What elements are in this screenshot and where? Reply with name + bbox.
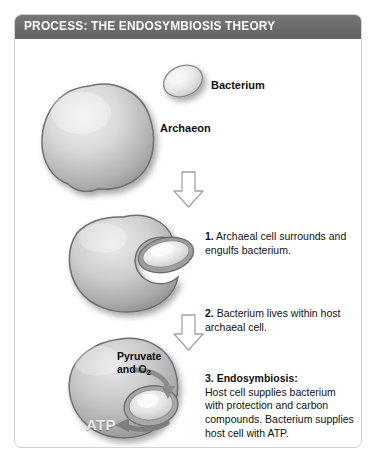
endosymbiosis-figure-frame: PROCESS: THE ENDOSYMBIOSIS THEORY [14, 14, 362, 448]
archaeon-shape [42, 84, 154, 191]
step-1-number: 1. [205, 230, 214, 242]
step-3-number: 3. [205, 372, 214, 384]
pyruvate-and-o-text: and O [117, 363, 147, 375]
step-3-heading-text: Endosymbiosis: [217, 372, 298, 384]
step-1-body: Archaeal cell surrounds and engulfs bact… [205, 230, 346, 256]
pyruvate-line-1: Pyruvate [117, 350, 161, 362]
step-3-body: Host cell supplies bacterium with protec… [205, 386, 354, 439]
pyruvate-line-2: and O2 [117, 363, 151, 375]
pyruvate-and-oxygen-label: Pyruvate and O2 [117, 350, 161, 378]
step-2-number: 2. [205, 307, 214, 319]
archaeon-label: Archaeon [160, 122, 211, 135]
figure-title: PROCESS: THE ENDOSYMBIOSIS THEORY [24, 19, 275, 33]
atp-label: ATP [86, 416, 116, 434]
bacterium-label: Bacterium [211, 79, 265, 92]
step-3-text: 3. Endosymbiosis: Host cell supplies bac… [205, 372, 355, 440]
diagram-canvas: Bacterium Archaeon Pyruvate and O2 ATP 1… [15, 39, 362, 448]
step-2-body: Bacterium lives within host archaeal cel… [205, 307, 340, 333]
step-1-text: 1. Archaeal cell surrounds and engulfs b… [205, 230, 355, 257]
figure-header-bar: PROCESS: THE ENDOSYMBIOSIS THEORY [15, 15, 362, 39]
step-2-text: 2. Bacterium lives within host archaeal … [205, 307, 355, 334]
down-arrow-icon-2 [174, 315, 203, 350]
bacterium-shape [159, 60, 207, 103]
down-arrow-icon-1 [174, 172, 203, 207]
oxygen-subscript: 2 [147, 368, 151, 377]
step-3-heading: 3. Endosymbiosis: [205, 372, 355, 386]
